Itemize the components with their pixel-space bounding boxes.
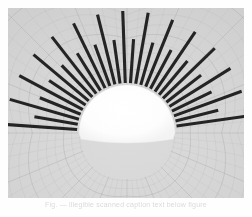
figure-frame bbox=[8, 8, 244, 198]
figure-page: Fig. — illegible scanned caption text be… bbox=[0, 0, 252, 217]
figure-caption: Fig. — illegible scanned caption text be… bbox=[8, 200, 244, 215]
sunburst-figure bbox=[8, 8, 244, 198]
